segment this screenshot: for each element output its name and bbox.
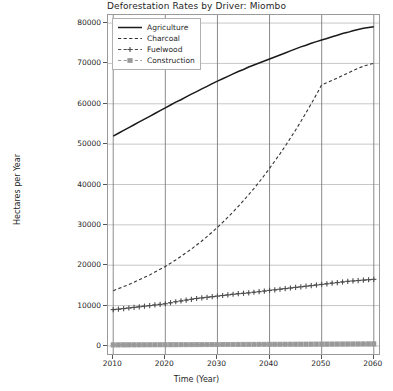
legend-item: Fuelwood [117,44,195,55]
legend-item-label: Construction [147,56,195,65]
chart-title: Deforestation Rates by Driver: Miombo [0,1,393,11]
x-tick-label: 2010 [103,359,122,368]
series-layer [111,27,377,347]
x-tick-mark [112,355,113,359]
y-axis-label: Hectares per Year [13,100,22,280]
legend-line-sample-icon [117,22,143,33]
y-tick-mark [103,62,107,63]
y-tick-label: 10000 [0,300,101,309]
y-tick-mark [103,224,107,225]
y-tick-mark [103,305,107,306]
y-tick-label: 80000 [0,18,101,27]
y-tick-mark [103,264,107,265]
x-tick-mark [164,355,165,359]
y-tick-label: 0 [0,340,101,349]
x-tick-label: 2020 [155,359,174,368]
legend-line-sample-icon [117,33,143,44]
x-tick-label: 2030 [207,359,226,368]
legend-item-label: Charcoal [147,34,180,43]
legend-line-sample-icon [117,44,143,55]
x-tick-mark [269,355,270,359]
chart-legend: AgricultureCharcoalFuelwoodConstruction [112,18,201,70]
y-tick-mark [103,143,107,144]
x-axis-label: Time (Year) [0,375,393,384]
y-tick-mark [103,184,107,185]
x-tick-label: 2050 [311,359,330,368]
y-tick-label: 70000 [0,58,101,67]
y-tick-mark [103,22,107,23]
x-tick-mark [321,355,322,359]
x-tick-label: 2060 [363,359,382,368]
legend-item-label: Agriculture [147,23,188,32]
y-tick-mark [103,103,107,104]
legend-line-sample-icon [117,55,143,66]
x-tick-mark [216,355,217,359]
legend-item: Construction [117,55,195,66]
legend-item: Charcoal [117,33,195,44]
chart-figure: Deforestation Rates by Driver: Miombo 01… [0,0,393,391]
legend-item: Agriculture [117,22,195,33]
x-tick-label: 2040 [259,359,278,368]
y-tick-mark [103,345,107,346]
x-tick-mark [373,355,374,359]
legend-item-label: Fuelwood [147,45,182,54]
